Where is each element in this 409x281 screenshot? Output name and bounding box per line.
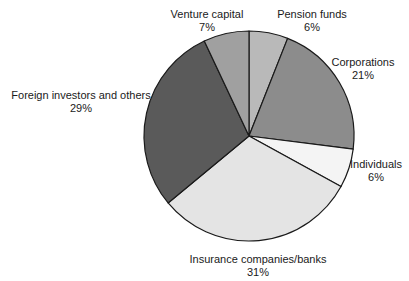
slice-label-name: Foreign investors and others [11, 89, 150, 102]
slice-label-percent: 6% [350, 171, 402, 184]
slice-label: Insurance companies/banks31% [190, 253, 327, 279]
slice-label: Foreign investors and others29% [11, 89, 150, 115]
slice-label-percent: 6% [277, 21, 347, 34]
pie-chart [0, 0, 409, 281]
slice-label: Venture capital7% [171, 8, 244, 34]
slice-label-percent: 21% [332, 69, 395, 82]
slice-label-name: Insurance companies/banks [190, 253, 327, 266]
slice-label-percent: 31% [190, 266, 327, 279]
slice-label: Pension funds6% [277, 8, 347, 34]
slice-label: Corporations21% [332, 56, 395, 82]
slice-label-name: Corporations [332, 56, 395, 69]
slice-label-percent: 7% [171, 21, 244, 34]
slice-label: Individuals6% [350, 158, 402, 184]
slice-label-percent: 29% [11, 102, 150, 115]
slice-label-name: Venture capital [171, 8, 244, 21]
slice-label-name: Individuals [350, 158, 402, 171]
slice-label-name: Pension funds [277, 8, 347, 21]
